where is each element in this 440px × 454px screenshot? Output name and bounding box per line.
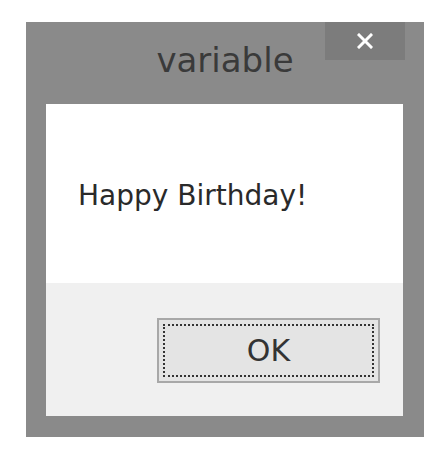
title-bar[interactable]: variable bbox=[26, 22, 424, 104]
message-box-window: variable Happy Birthday! OK bbox=[26, 22, 424, 437]
ok-button-label: OK bbox=[247, 336, 290, 366]
dialog-content: Happy Birthday! OK bbox=[46, 104, 403, 416]
message-text: Happy Birthday! bbox=[78, 178, 307, 214]
button-footer: OK bbox=[46, 283, 403, 416]
close-button[interactable] bbox=[325, 22, 405, 60]
ok-button[interactable]: OK bbox=[157, 318, 380, 383]
close-icon bbox=[357, 33, 373, 49]
